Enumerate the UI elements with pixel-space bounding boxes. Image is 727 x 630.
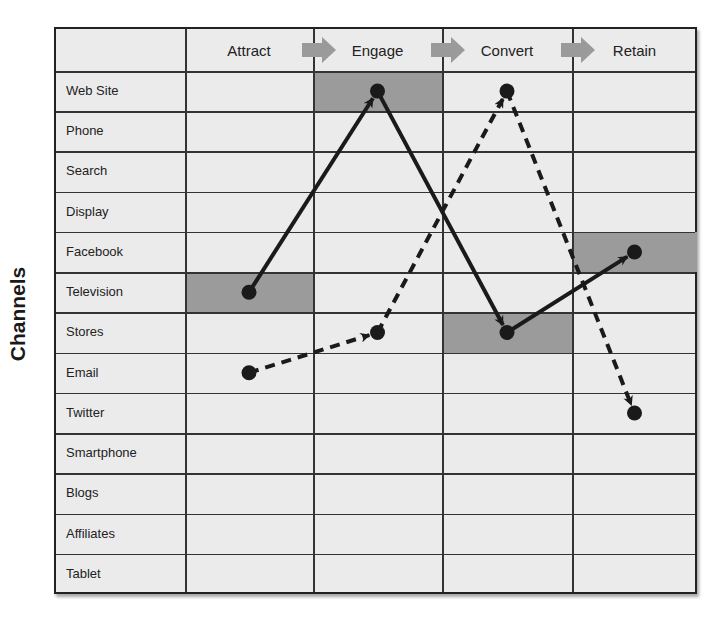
highlighted-cell — [313, 71, 442, 111]
grid-row-divider — [56, 272, 695, 274]
channel-label-blogs: Blogs — [66, 473, 99, 513]
channel-label-smartphone: Smartphone — [66, 433, 137, 473]
stage-arrow-icon — [561, 37, 595, 63]
grid-column-divider — [572, 29, 574, 592]
channel-stage-grid: AttractEngageConvertRetainWeb SitePhoneS… — [54, 27, 697, 594]
grid-column-divider — [442, 29, 444, 592]
channel-label-stores: Stores — [66, 312, 104, 352]
grid-row-divider — [56, 353, 695, 355]
channel-label-affiliates: Affiliates — [66, 514, 115, 554]
y-axis-label-channels: Channels — [6, 267, 30, 362]
stage-arrow-icon — [431, 37, 465, 63]
grid-column-divider — [313, 29, 315, 592]
channel-label-web-site: Web Site — [66, 71, 119, 111]
channel-label-facebook: Facebook — [66, 232, 123, 272]
highlighted-cell — [442, 312, 572, 352]
grid-row-divider — [56, 514, 695, 516]
channel-label-email: Email — [66, 353, 99, 393]
grid-column-divider — [185, 29, 187, 592]
stage-arrow-icon — [302, 37, 336, 63]
highlighted-cell — [572, 232, 697, 272]
highlighted-cell — [185, 272, 313, 312]
grid-row-divider — [56, 192, 695, 194]
grid-row-divider — [56, 151, 695, 153]
grid-row-divider — [56, 232, 695, 234]
channel-label-display: Display — [66, 192, 109, 232]
grid-row-divider — [56, 433, 695, 435]
channel-label-phone: Phone — [66, 111, 104, 151]
channel-label-twitter: Twitter — [66, 393, 104, 433]
grid-row-divider — [56, 312, 695, 314]
channel-label-search: Search — [66, 151, 107, 191]
grid-row-divider — [56, 473, 695, 475]
stage-header-attract: Attract — [185, 29, 313, 73]
grid-row-divider — [56, 111, 695, 113]
grid-row-divider — [56, 393, 695, 395]
channel-label-tablet: Tablet — [66, 554, 101, 594]
channel-label-television: Television — [66, 272, 123, 312]
grid-row-divider — [56, 554, 695, 556]
